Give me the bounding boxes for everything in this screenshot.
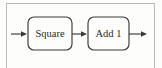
- diagram-canvas: Square Add 1: [0, 0, 162, 68]
- square-block-label: Square: [35, 28, 64, 39]
- output-arrow: [129, 31, 147, 36]
- input-arrow: [11, 31, 27, 36]
- link-arrow: [72, 31, 87, 36]
- add1-block: Add 1: [88, 17, 129, 50]
- square-block: Square: [28, 17, 72, 50]
- add1-block-label: Add 1: [96, 28, 122, 39]
- diagram-screenshot: Square Add 1: [0, 0, 162, 68]
